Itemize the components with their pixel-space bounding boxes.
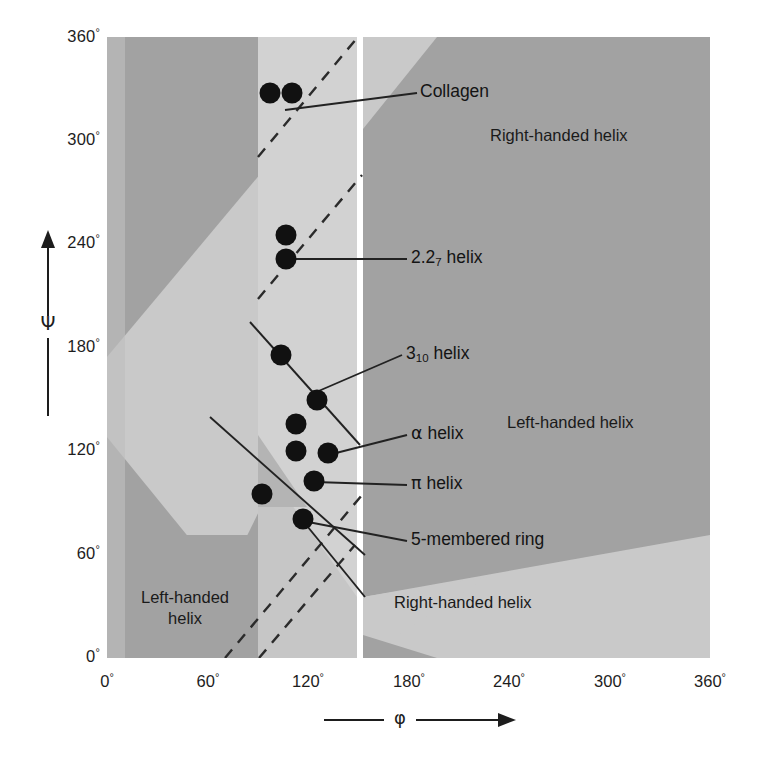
annotation-helix-alpha-tail: helix — [423, 423, 464, 443]
annotation-helix-pi-glyph: π — [411, 473, 422, 493]
x-tick-240: 240° — [469, 672, 549, 691]
x-tick-value: 0 — [100, 672, 109, 690]
x-tick-60: 60° — [168, 672, 248, 691]
annotation-helix-310-sub: 10 — [416, 352, 429, 364]
x-tick-value: 60 — [197, 672, 215, 690]
region-label-left-handed-helix-right: Left-handed helix — [507, 412, 634, 433]
degree-symbol: ° — [421, 671, 425, 683]
annotation-helix-pi-tail: helix — [422, 473, 463, 493]
y-tick-0: 0° — [38, 647, 100, 666]
x-tick-360: 360° — [670, 672, 750, 691]
y-tick-value: 0 — [86, 647, 95, 665]
y-tick-value: 300 — [67, 130, 95, 148]
x-tick-300: 300° — [570, 672, 650, 691]
region-label-left-handed-helix-lower: Left-handed helix — [120, 587, 250, 629]
degree-symbol: ° — [521, 671, 525, 683]
annotation-helix-227-sub: 7 — [435, 256, 441, 268]
annotation-helix-alpha-glyph: α — [411, 423, 423, 443]
data-point-near-alpha-up[interactable] — [286, 414, 307, 435]
x-axis-ticks: 0° 60° 120° 180° 240° 300° 360° — [0, 672, 758, 702]
x-axis-title-glyph: φ — [382, 707, 418, 728]
plot-area: Right-handed helix Left-handed helix Rig… — [107, 37, 710, 658]
annotation-helix-310: 310 helix — [406, 345, 469, 363]
degree-symbol: ° — [95, 232, 100, 244]
degree-symbol: ° — [95, 26, 100, 38]
y-tick-value: 120 — [67, 440, 95, 458]
data-point-helix-alpha[interactable] — [318, 443, 339, 464]
region-label-left-handed-helix-lower-line2: helix — [120, 608, 250, 629]
y-tick-300: 300° — [38, 130, 100, 149]
degree-symbol: ° — [320, 671, 324, 683]
y-tick-value: 60 — [77, 544, 96, 562]
y-axis-title: Ψ — [28, 228, 68, 428]
data-point-helix-pi[interactable] — [304, 471, 325, 492]
annotation-5-membered-ring: 5-membered ring — [411, 531, 544, 549]
annotation-helix-alpha: α helix — [411, 425, 463, 443]
data-point-5-membered-ring[interactable] — [293, 509, 314, 530]
region-label-right-handed-helix-upper: Right-handed helix — [490, 125, 628, 146]
x-tick-120: 120° — [268, 672, 348, 691]
x-tick-value: 300 — [594, 672, 622, 690]
degree-symbol: ° — [95, 543, 100, 555]
annotation-helix-227-tail: helix — [442, 247, 483, 267]
x-tick-value: 180 — [393, 672, 421, 690]
band-white-separator — [357, 37, 363, 658]
degree-symbol: ° — [722, 671, 726, 683]
y-axis-title-glyph: Ψ — [28, 312, 68, 334]
y-tick-360: 360° — [38, 27, 100, 46]
annotation-helix-pi: π helix — [411, 475, 462, 493]
data-point-alpha-left[interactable] — [286, 441, 307, 462]
x-tick-value: 120 — [292, 672, 320, 690]
data-point-left-of-310[interactable] — [271, 345, 292, 366]
region-label-left-handed-helix-lower-line1: Left-handed — [120, 587, 250, 608]
x-tick-value: 240 — [493, 672, 521, 690]
degree-symbol: ° — [109, 671, 113, 683]
degree-symbol: ° — [95, 336, 100, 348]
annotation-collagen: Collagen — [420, 83, 489, 101]
x-tick-value: 360 — [694, 672, 722, 690]
region-label-right-handed-helix-lower: Right-handed helix — [394, 592, 532, 613]
y-tick-60: 60° — [38, 544, 100, 563]
data-point-lower-left[interactable] — [252, 484, 273, 505]
annotation-helix-227-main: 2.2 — [411, 247, 435, 267]
data-point-upper-unnamed[interactable] — [276, 225, 297, 246]
y-tick-value: 240 — [67, 233, 95, 251]
annotation-helix-310-main: 3 — [406, 343, 416, 363]
annotation-helix-227: 2.27 helix — [411, 249, 483, 267]
data-point-helix-310[interactable] — [307, 390, 328, 411]
x-tick-0: 0° — [67, 672, 147, 691]
y-tick-120: 120° — [38, 440, 100, 459]
data-point-collagen-right[interactable] — [282, 83, 303, 104]
ramachandran-plot-figure: Right-handed helix Left-handed helix Rig… — [0, 0, 758, 764]
x-axis-title: φ — [320, 706, 520, 734]
x-tick-180: 180° — [369, 672, 449, 691]
data-point-collagen-left[interactable] — [260, 83, 281, 104]
degree-symbol: ° — [95, 646, 100, 658]
y-tick-value: 180 — [67, 337, 95, 355]
degree-symbol: ° — [95, 129, 100, 141]
annotation-helix-310-tail: helix — [429, 343, 470, 363]
y-tick-value: 360 — [67, 27, 95, 45]
x-axis-arrow-icon — [320, 706, 520, 734]
degree-symbol: ° — [215, 671, 219, 683]
degree-symbol: ° — [622, 671, 626, 683]
degree-symbol: ° — [95, 439, 100, 451]
data-point-helix-227[interactable] — [276, 249, 297, 270]
region-left-edge-shade — [107, 37, 125, 658]
